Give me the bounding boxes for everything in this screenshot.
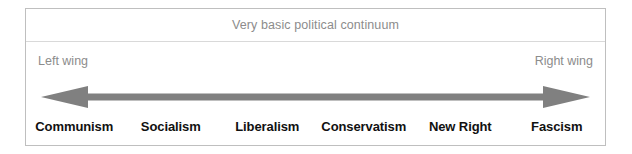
- right-wing-label: Right wing: [535, 54, 593, 68]
- continuum-arrow: [26, 84, 605, 110]
- figure-title: Very basic political continuum: [232, 18, 399, 32]
- ideology-label: Conservatism: [316, 119, 413, 134]
- wing-labels-row: Left wing Right wing: [26, 54, 605, 72]
- political-continuum-figure: Very basic political continuum Left wing…: [25, 8, 606, 146]
- double-headed-arrow-icon: [26, 84, 605, 110]
- ideology-label: New Right: [412, 119, 509, 134]
- ideology-label: Socialism: [123, 119, 220, 134]
- ideology-label: Fascism: [509, 119, 606, 134]
- figure-title-band: Very basic political continuum: [26, 9, 605, 42]
- ideology-labels-row: Communism Socialism Liberalism Conservat…: [26, 116, 605, 136]
- left-wing-label: Left wing: [38, 54, 88, 68]
- ideology-label: Communism: [26, 119, 123, 134]
- ideology-label: Liberalism: [219, 119, 316, 134]
- figure-body: Left wing Right wing Communism Socialism…: [26, 42, 605, 146]
